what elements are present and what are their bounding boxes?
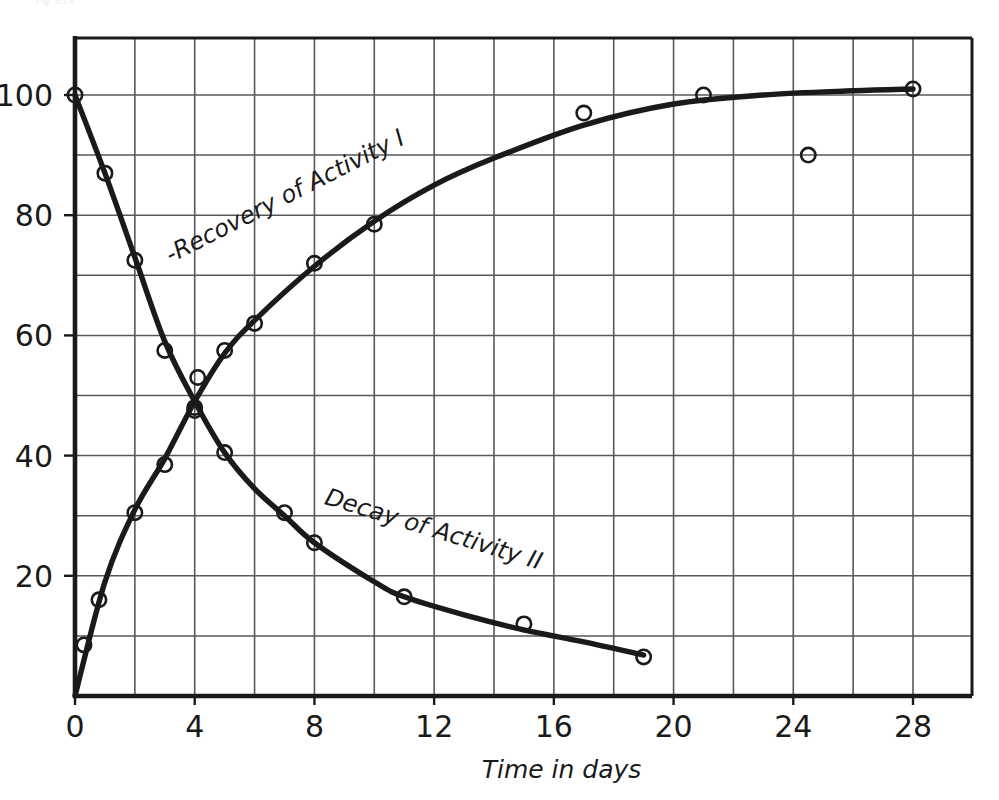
axis-titles: Time in days xyxy=(482,755,642,784)
x-tick-label: 28 xyxy=(894,709,932,744)
x-tick-label: 16 xyxy=(535,709,573,744)
chart-canvas: 048121620242820406080100 -Recovery of Ac… xyxy=(0,0,999,800)
data-point-marker xyxy=(191,370,205,384)
plot-frame xyxy=(73,36,972,696)
series-inline-label: -Recovery of Activity I xyxy=(161,124,409,269)
x-tick-label: 24 xyxy=(774,709,812,744)
x-tick-label: 4 xyxy=(185,709,204,744)
y-tick-label: 80 xyxy=(15,198,53,233)
data-point-marker xyxy=(577,106,591,120)
y-tick-label: 40 xyxy=(15,439,53,474)
y-tick-label: 20 xyxy=(15,559,53,594)
x-tick-label: 12 xyxy=(415,709,453,744)
figure-container: Fig. 5.14 048121620242820406080100 -Reco… xyxy=(0,0,999,800)
y-tick-label: 100 xyxy=(0,78,53,113)
axis-tick-labels: 048121620242820406080100 xyxy=(0,78,932,744)
grid-lines xyxy=(75,38,972,696)
x-tick-label: 20 xyxy=(654,709,692,744)
x-tick-label: 0 xyxy=(65,709,84,744)
series-curve xyxy=(75,95,644,655)
figure-caption: Fig. 5.14 xyxy=(36,0,74,6)
x-tick-label: 8 xyxy=(305,709,324,744)
y-tick-label: 60 xyxy=(15,318,53,353)
x-axis-title: Time in days xyxy=(482,755,642,784)
